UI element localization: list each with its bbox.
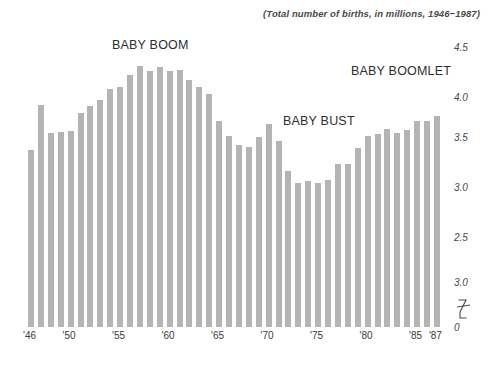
y-axis: 4.54.03.53.02.53.00 [444, 0, 494, 369]
bar [147, 71, 153, 327]
x-axis-tick-label: '80 [360, 330, 373, 341]
bar [177, 70, 183, 327]
bar [266, 124, 272, 327]
bar [206, 94, 212, 327]
x-axis-tick-label: '55 [112, 330, 125, 341]
bar [226, 136, 232, 327]
x-axis-tick-label: '60 [162, 330, 175, 341]
bar [186, 80, 192, 327]
y-axis-tick-label: 3.5 [454, 132, 468, 143]
x-axis-tick-label: '85 [409, 330, 422, 341]
bar [196, 87, 202, 327]
x-axis-tick-label: '75 [310, 330, 323, 341]
bar [434, 116, 440, 327]
x-axis-tick-label: '87 [429, 330, 442, 341]
bar [87, 106, 93, 327]
bar [375, 134, 381, 327]
bar [424, 121, 430, 327]
bar [276, 141, 282, 327]
births-bar-chart: (Total number of births, in millions, 19… [0, 0, 494, 369]
y-axis-tick-label: 3.0 [454, 182, 468, 193]
x-axis-tick-label: '50 [63, 330, 76, 341]
plot-area [28, 40, 446, 327]
bar [38, 105, 44, 327]
bar [167, 71, 173, 327]
x-axis: '46'50'55'60'65'70'75'80'85'87 [0, 330, 494, 350]
bar [236, 145, 242, 327]
bar [107, 89, 113, 327]
bar [414, 121, 420, 327]
bar [335, 164, 341, 327]
bar [384, 129, 390, 327]
bar [157, 67, 163, 327]
y-axis-tick-label: 4.0 [454, 92, 468, 103]
bar [246, 147, 252, 327]
bar [315, 183, 321, 327]
bar [48, 133, 54, 327]
bar [325, 180, 331, 327]
bar [137, 66, 143, 327]
bar [68, 131, 74, 327]
x-axis-tick-label: '65 [211, 330, 224, 341]
bar [404, 130, 410, 327]
bar [295, 183, 301, 327]
bar [216, 121, 222, 327]
bar [58, 132, 64, 327]
bar [355, 148, 361, 327]
x-axis-tick-label: '46 [23, 330, 36, 341]
bar [394, 133, 400, 327]
y-axis-tick-label: 4.5 [454, 42, 468, 53]
bar [365, 136, 371, 327]
bar [256, 137, 262, 327]
bar [305, 181, 311, 327]
y-axis-tick-label: 2.5 [454, 232, 468, 243]
bar [285, 171, 291, 327]
bar [78, 113, 84, 327]
bar [345, 164, 351, 327]
annotation-baby-boom: BABY BOOM [112, 38, 189, 52]
bar [28, 150, 34, 327]
bar [117, 87, 123, 327]
y-axis-tick-label: 3.0 [454, 277, 468, 288]
bar [97, 100, 103, 327]
annotation-baby-bust: BABY BUST [283, 114, 355, 128]
axis-break-icon [457, 294, 473, 320]
annotation-baby-boomlet: BABY BOOMLET [351, 64, 451, 78]
x-axis-tick-label: '70 [261, 330, 274, 341]
bar [127, 75, 133, 327]
